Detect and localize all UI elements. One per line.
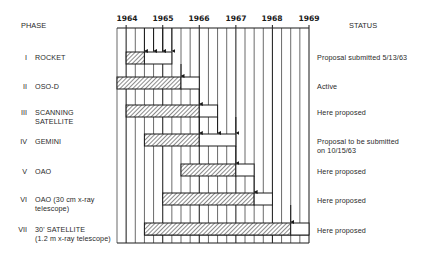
chart-bars bbox=[117, 52, 309, 235]
gantt-chart bbox=[0, 0, 421, 255]
